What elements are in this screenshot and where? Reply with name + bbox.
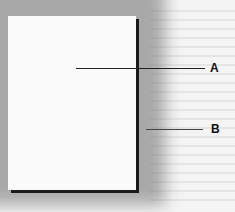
- background-bleed-text: [150, 10, 235, 205]
- callout-line-a: [76, 68, 205, 69]
- callout-line-b: [146, 129, 203, 130]
- page-sheet: [8, 16, 136, 190]
- callout-label-b: B: [211, 122, 220, 136]
- callout-label-a: A: [210, 61, 219, 75]
